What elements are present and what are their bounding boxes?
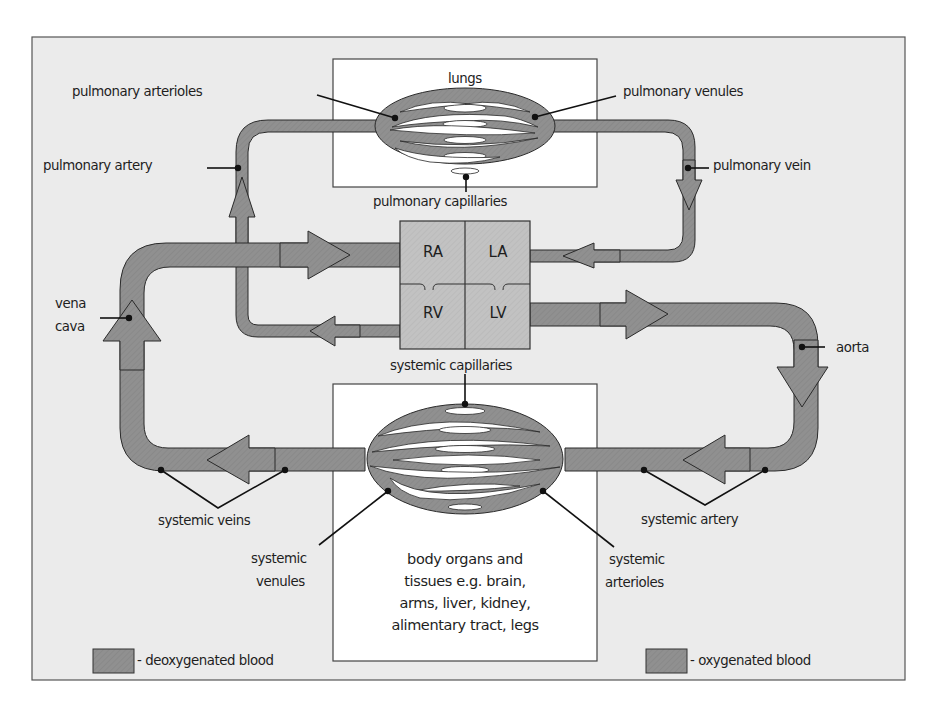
circulatory-diagram: lungs pulmonary arterioles pulmonary ven… <box>0 0 929 714</box>
chamber-la: LA <box>466 243 530 261</box>
label-systemic-capillaries: systemic capillaries <box>390 357 512 374</box>
label-systemic-veins: systemic veins <box>158 512 250 529</box>
body-organs-text: body organs and tissues e.g. brain, arms… <box>333 548 597 636</box>
label-vena-cava-line2: cava <box>55 318 85 335</box>
label-pulmonary-capillaries: pulmonary capillaries <box>373 193 507 210</box>
label-pulmonary-venules: pulmonary venules <box>623 83 743 100</box>
label-vena-cava-line1: vena <box>55 295 86 312</box>
body-text-line: body organs and <box>333 548 597 570</box>
legend-label-oxygenated: - oxygenated blood <box>690 652 811 669</box>
body-text-line: alimentary tract, legs <box>333 614 597 636</box>
chamber-ra: RA <box>401 243 465 261</box>
heart <box>400 221 530 349</box>
body-text-line: arms, liver, kidney, <box>333 592 597 614</box>
chamber-lv: LV <box>466 304 530 322</box>
label-pulmonary-vein: pulmonary vein <box>713 157 811 174</box>
label-aorta: aorta <box>836 339 869 356</box>
body-text-line: tissues e.g. brain, <box>333 570 597 592</box>
lungs-label: lungs <box>442 70 488 87</box>
label-pulmonary-artery: pulmonary artery <box>43 157 152 174</box>
legend-swatch-deoxygenated <box>93 649 134 673</box>
systemic-capillary-bed <box>367 404 563 514</box>
chamber-rv: RV <box>401 304 465 322</box>
label-systemic-venules-line1: systemic <box>251 550 307 567</box>
label-systemic-artery: systemic artery <box>641 511 738 528</box>
label-systemic-arterioles-line2: arterioles <box>605 574 664 591</box>
legend-swatch-oxygenated <box>646 649 687 673</box>
label-systemic-arterioles-line1: systemic <box>609 551 665 568</box>
label-pulmonary-arterioles: pulmonary arterioles <box>72 83 202 100</box>
label-systemic-venules-line2: venules <box>256 573 305 590</box>
legend-label-deoxygenated: - deoxygenated blood <box>137 652 273 669</box>
